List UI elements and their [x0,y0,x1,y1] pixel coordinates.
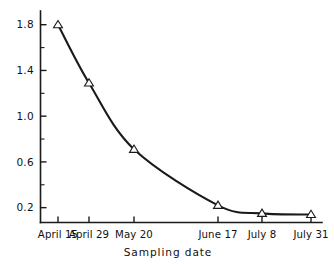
y-tick-label: 0.2 [16,201,34,213]
x-tick-label: May 20 [115,229,153,240]
x-tick-label: July 31 [292,229,328,240]
y-tick-label: 1.0 [16,110,34,122]
y-tick-label: 1.8 [16,18,34,30]
chart-background [0,0,334,264]
y-tick-label: 1.4 [16,64,34,76]
y-tick-label: 0.6 [16,156,34,168]
x-tick-label: April 29 [69,229,109,240]
x-axis-title: Sampling date [124,246,213,258]
x-tick-label: July 8 [247,229,277,240]
x-tick-label: June 17 [197,229,237,240]
chart-figure: 0.20.61.01.41.8 April 15April 29May 20Ju… [0,0,334,264]
decay-curve-chart: 0.20.61.01.41.8 April 15April 29May 20Ju… [0,0,334,264]
